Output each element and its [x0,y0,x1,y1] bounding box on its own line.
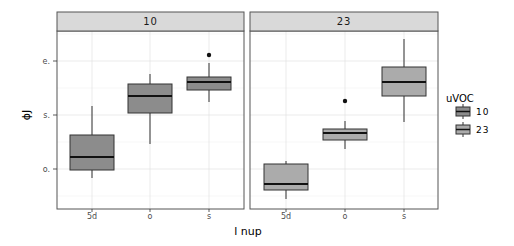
outlier-point [343,99,347,103]
boxplot-chart: 1023 o.s.e. 5dos5dos l nup ϕJ uVOC 1023 [0,0,514,246]
iqr-box [128,84,172,113]
outlier-point [207,53,211,57]
legend: uVOC 1023 [446,93,489,137]
iqr-box [70,135,114,170]
iqr-box [323,129,367,140]
facet-panel-23: 23 [250,12,438,209]
x-axis: 5dos5dos [87,209,406,221]
iqr-box [264,164,308,190]
x-tick-label: o [343,212,348,221]
legend-title: uVOC [446,93,474,104]
y-tick-label: s. [43,111,50,120]
x-tick-label: s [207,212,211,221]
facet-strip-label: 23 [337,16,352,27]
x-tick-label: s [402,212,406,221]
x-axis-title: l nup [234,225,261,238]
y-axis: o.s.e. [43,57,57,174]
facet-strip-label: 10 [143,16,158,27]
legend-label: 23 [476,125,489,135]
facet-panel-10: 10 [57,12,244,209]
legend-label: 10 [476,107,489,117]
facet-panels: 1023 [57,12,438,209]
x-tick-label: 5d [281,212,291,221]
y-tick-label: o. [43,165,50,174]
x-tick-label: 5d [87,212,97,221]
iqr-box [187,77,231,90]
y-tick-label: e. [43,57,50,66]
y-axis-title: ϕJ [20,110,33,121]
legend-key-23: 23 [456,122,489,137]
x-tick-label: o [148,212,153,221]
legend-key-10: 10 [456,104,489,119]
